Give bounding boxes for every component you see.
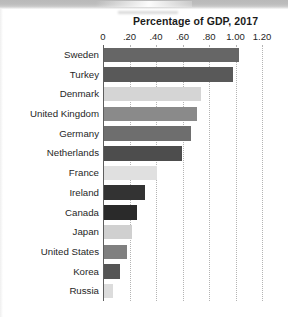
x-tick-label-0: 0 bbox=[100, 31, 105, 42]
bar-denmark[interactable] bbox=[104, 87, 201, 102]
x-tick-label-5: 1.00 bbox=[226, 31, 245, 42]
category-label-russia: Russia bbox=[0, 281, 99, 301]
category-label-ireland: Ireland bbox=[0, 183, 99, 203]
category-label-france: France bbox=[0, 163, 99, 183]
bar-row[interactable] bbox=[103, 203, 288, 223]
bar-row[interactable] bbox=[103, 163, 288, 183]
bar-row[interactable] bbox=[103, 242, 288, 262]
scan-artifact-band bbox=[0, 0, 288, 9]
x-tick-label-3: .60 bbox=[176, 31, 189, 42]
bar-row[interactable] bbox=[103, 281, 288, 301]
bar-turkey[interactable] bbox=[104, 67, 233, 82]
plot-area bbox=[103, 45, 288, 301]
chart-figure: Percentage of GDP, 2017 0.20.40.60.801.0… bbox=[0, 0, 288, 317]
x-tick-label-4: .80 bbox=[202, 31, 215, 42]
bar-row[interactable] bbox=[103, 65, 288, 85]
bar-france[interactable] bbox=[104, 166, 157, 181]
category-label-turkey: Turkey bbox=[0, 65, 99, 85]
category-label-germany: Germany bbox=[0, 124, 99, 144]
category-label-sweden: Sweden bbox=[0, 45, 99, 65]
y-axis-line bbox=[103, 45, 104, 301]
category-label-canada: Canada bbox=[0, 203, 99, 223]
x-axis-tick-labels: 0.20.40.60.801.001.20 bbox=[0, 31, 288, 45]
bar-rows bbox=[103, 45, 288, 301]
category-label-japan: Japan bbox=[0, 222, 99, 242]
bar-row[interactable] bbox=[103, 104, 288, 124]
category-label-united-kingdom: United Kingdom bbox=[0, 104, 99, 124]
category-label-united-states: United States bbox=[0, 242, 99, 262]
bar-netherlands[interactable] bbox=[104, 146, 182, 161]
chart-title: Percentage of GDP, 2017 bbox=[103, 15, 288, 27]
category-label-netherlands: Netherlands bbox=[0, 143, 99, 163]
bar-sweden[interactable] bbox=[104, 48, 239, 63]
x-tick-label-6: 1.20 bbox=[253, 31, 272, 42]
bar-row[interactable] bbox=[103, 84, 288, 104]
bar-row[interactable] bbox=[103, 262, 288, 282]
x-tick-label-2: .40 bbox=[149, 31, 162, 42]
bar-ireland[interactable] bbox=[104, 185, 145, 200]
bar-russia[interactable] bbox=[104, 284, 113, 299]
bar-japan[interactable] bbox=[104, 225, 132, 240]
scan-artifact-smudge bbox=[118, 11, 178, 14]
bar-united-kingdom[interactable] bbox=[104, 107, 197, 122]
bar-row[interactable] bbox=[103, 124, 288, 144]
bar-united-states[interactable] bbox=[104, 245, 127, 260]
category-axis-labels: SwedenTurkeyDenmarkUnited KingdomGermany… bbox=[0, 45, 99, 301]
category-label-denmark: Denmark bbox=[0, 84, 99, 104]
bar-germany[interactable] bbox=[104, 126, 191, 141]
category-label-korea: Korea bbox=[0, 262, 99, 282]
bar-row[interactable] bbox=[103, 222, 288, 242]
bar-row[interactable] bbox=[103, 143, 288, 163]
bar-canada[interactable] bbox=[104, 205, 137, 220]
x-tick-label-1: .20 bbox=[123, 31, 136, 42]
bar-row[interactable] bbox=[103, 45, 288, 65]
bar-row[interactable] bbox=[103, 183, 288, 203]
bar-korea[interactable] bbox=[104, 264, 120, 279]
